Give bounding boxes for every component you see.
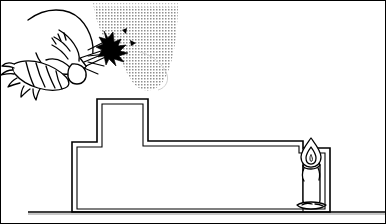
- line-drawing: [0, 0, 386, 224]
- illustration-canvas: Hand squeezing a rubber bulb blowing air…: [0, 0, 386, 224]
